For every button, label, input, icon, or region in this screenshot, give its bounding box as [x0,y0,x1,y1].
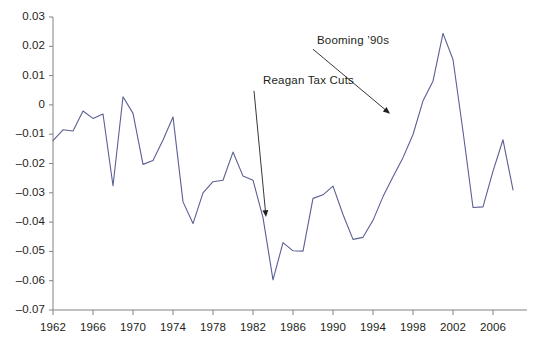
chart-container: 0.030.020.010–0.01–0.02–0.03–0.04–0.05–0… [0,0,535,357]
y-axis-ticks [49,17,53,310]
y-tick-label: –0.05 [0,244,45,256]
y-tick-label: –0.02 [0,157,45,169]
axes [53,17,527,310]
y-tick-label: 0.03 [0,10,45,22]
y-tick-label: –0.03 [0,186,45,198]
annotation-label-booming-90s: Booming ’90s [317,34,389,46]
y-tick-label: 0 [0,98,45,110]
y-tick-label: –0.04 [0,215,45,227]
y-tick-label: –0.07 [0,303,45,315]
y-tick-label: –0.01 [0,127,45,139]
annotation-label-reagan-tax-cuts: Reagan Tax Cuts [263,74,354,86]
x-axis-ticks [53,310,493,315]
arrow-head-reagan-tax-cuts [262,210,268,217]
y-tick-label: –0.06 [0,274,45,286]
x-tick-label: 2006 [468,321,518,333]
y-tick-label: 0.02 [0,39,45,51]
y-tick-label: 0.01 [0,69,45,81]
line-chart-plot [0,0,535,357]
series-line-1 [53,33,513,279]
arrow-shaft-reagan-tax-cuts [254,91,266,213]
